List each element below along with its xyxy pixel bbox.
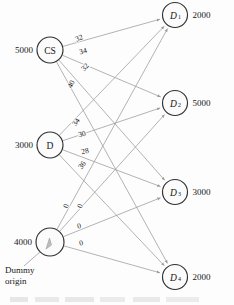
demand-value-d3: 3000 bbox=[193, 187, 212, 197]
edge-d-d3 bbox=[63, 150, 161, 187]
node-label-d: D bbox=[47, 141, 54, 151]
origin-node-cs[interactable]: CS5000 bbox=[15, 37, 63, 63]
node-sublabel-d2: 2 bbox=[178, 102, 181, 108]
destination-node-d4[interactable]: D42000 bbox=[163, 265, 212, 290]
cost-label-d-d1: 34 bbox=[70, 116, 82, 128]
node-label-d2: D bbox=[169, 99, 177, 109]
node-sublabel-d4: 4 bbox=[178, 276, 181, 282]
supply-value-cs: 5000 bbox=[15, 45, 34, 55]
cost-label-cs-d4: 40 bbox=[65, 78, 77, 89]
destination-node-d3[interactable]: D33000 bbox=[163, 180, 212, 205]
cost-label-dummy-d3: 0 bbox=[76, 221, 82, 231]
cost-label-d-d3: 28 bbox=[80, 146, 89, 156]
figure-canvas: CS5000D30004000DummyoriginD12000D25000D3… bbox=[0, 0, 234, 305]
node-label-d1: D bbox=[169, 11, 177, 21]
edge-dummy-d1 bbox=[57, 29, 168, 230]
demand-value-d2: 5000 bbox=[193, 98, 212, 108]
cost-label-cs-d1: 32 bbox=[74, 32, 85, 43]
demand-value-d4: 2000 bbox=[193, 272, 212, 282]
cost-label-dummy-d4: 0 bbox=[78, 238, 84, 248]
supply-value-d: 3000 bbox=[15, 140, 34, 150]
edge-dummy-d4 bbox=[64, 246, 160, 273]
node-layer: CS5000D30004000DummyoriginD12000D25000D3… bbox=[5, 3, 211, 290]
dummy-origin-leader-line bbox=[24, 251, 41, 266]
demand-value-d1: 2000 bbox=[193, 10, 212, 20]
node-label-cs: CS bbox=[44, 46, 56, 56]
cost-label-dummy-d2: 0 bbox=[75, 203, 85, 210]
edge-layer bbox=[57, 19, 168, 273]
cost-label-d-d4: 36 bbox=[76, 159, 88, 171]
node-sublabel-d1: 1 bbox=[178, 14, 181, 20]
page-footer-smudge bbox=[10, 297, 215, 302]
edge-dummy-d2 bbox=[60, 115, 165, 232]
node-sublabel-d3: 3 bbox=[178, 191, 181, 197]
destination-node-d1[interactable]: D12000 bbox=[163, 3, 212, 28]
node-label-d4: D bbox=[169, 273, 177, 283]
supply-value-dummy: 4000 bbox=[14, 237, 33, 247]
dummy-origin-annotation-line1: Dummy bbox=[5, 265, 35, 275]
cost-label-d-d2: 30 bbox=[77, 129, 87, 140]
destination-node-d2[interactable]: D25000 bbox=[163, 91, 212, 116]
origin-node-dummy[interactable]: 4000Dummyorigin bbox=[5, 228, 64, 286]
network-diagram: CS5000D30004000DummyoriginD12000D25000D3… bbox=[0, 0, 234, 305]
node-label-d3: D bbox=[169, 188, 177, 198]
edge-cs-d2 bbox=[62, 55, 160, 97]
dummy-origin-annotation-line2: origin bbox=[5, 276, 27, 286]
origin-node-d[interactable]: D3000 bbox=[15, 132, 63, 158]
cost-label-cs-d2: 34 bbox=[78, 46, 88, 57]
cost-label-dummy-d1: 0 bbox=[61, 203, 71, 210]
edge-cs-d4 bbox=[57, 62, 168, 264]
